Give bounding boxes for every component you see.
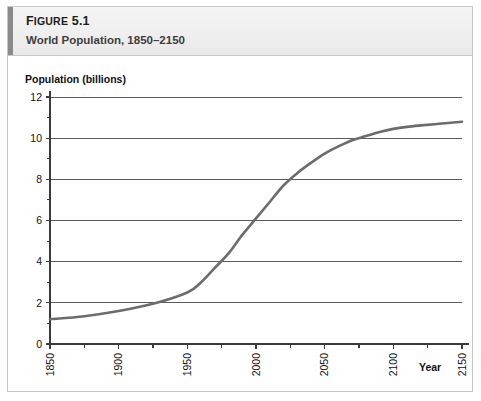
x-tick-label: 2150 — [456, 353, 468, 377]
x-tick-label: 2050 — [318, 353, 330, 377]
figure-header-text: FIGURE 5.1 World Population, 1850–2150 — [26, 13, 185, 48]
x-tick-label: 2000 — [250, 353, 262, 377]
figure-container: FIGURE 5.1 World Population, 1850–2150 P… — [7, 6, 473, 392]
header-accent-bar — [8, 7, 13, 55]
y-tick-label: 12 — [30, 91, 42, 103]
x-tick-label: 1850 — [44, 353, 56, 377]
x-tick-label: 1950 — [181, 353, 193, 377]
x-tick-label: 2100 — [387, 353, 399, 377]
y-tick-label: 2 — [36, 297, 42, 309]
y-tick-label: 8 — [36, 173, 42, 185]
figure-header: FIGURE 5.1 World Population, 1850–2150 — [8, 7, 472, 56]
y-tick-label: 10 — [30, 132, 42, 144]
figure-number-initial: F — [26, 14, 34, 28]
chart-body: Population (billions) Year 0246810121850… — [8, 56, 472, 391]
figure-number: FIGURE 5.1 — [26, 13, 185, 29]
y-tick-label: 4 — [36, 255, 42, 267]
figure-number-value: 5.1 — [68, 14, 90, 28]
x-tick-label: 1900 — [112, 353, 124, 377]
figure-number-word: IGURE — [34, 15, 68, 27]
y-tick-label: 6 — [36, 214, 42, 226]
figure-title: World Population, 1850–2150 — [26, 32, 185, 48]
y-tick-label: 0 — [36, 338, 42, 350]
line-chart-plot: 0246810121850190019502000205021002150 — [8, 56, 474, 392]
